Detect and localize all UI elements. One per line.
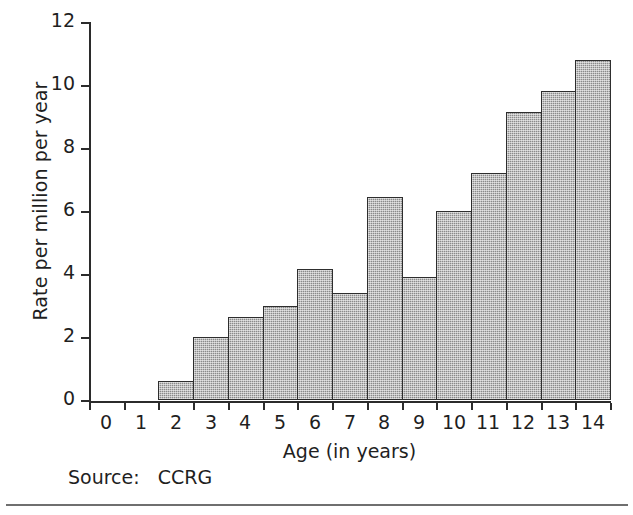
x-axis-tick-label: 6	[295, 411, 335, 433]
y-axis-tick: 6	[81, 211, 89, 213]
bar	[541, 91, 576, 400]
x-axis-tick	[541, 403, 543, 410]
x-axis-tick-label: 1	[121, 411, 161, 433]
y-axis-tick: 0	[81, 400, 89, 402]
y-axis-tick-label: 10	[51, 73, 75, 93]
x-axis-tick	[471, 403, 473, 410]
bar	[575, 60, 611, 400]
x-axis-title: Age (in years)	[89, 440, 610, 462]
y-axis-tick: 8	[81, 148, 89, 150]
y-axis-title: Rate per million per year	[29, 11, 51, 391]
x-axis-tick	[402, 403, 404, 410]
y-axis-line	[89, 22, 91, 403]
y-axis-tick-label: 2	[63, 325, 75, 345]
x-axis-tick	[297, 403, 299, 410]
y-axis-tick-label: 8	[63, 136, 75, 156]
x-axis-tick	[193, 403, 195, 410]
x-axis-line	[89, 401, 611, 403]
bar	[471, 173, 507, 400]
bar	[263, 306, 298, 401]
bar	[436, 211, 472, 400]
x-axis-tick	[506, 403, 508, 410]
x-axis-tick	[263, 403, 265, 410]
y-axis-tick-label: 4	[63, 262, 75, 282]
bar	[193, 337, 229, 400]
bar	[228, 317, 264, 400]
x-axis-tick	[158, 403, 160, 410]
bar	[297, 269, 333, 400]
bar-chart-figure: Rate per million per year 024681012 0123…	[0, 0, 633, 515]
x-axis-tick	[436, 403, 438, 410]
x-axis-tick-label: 2	[156, 411, 196, 433]
source-note: Source: CCRG	[68, 466, 212, 488]
bar	[332, 293, 368, 400]
x-axis-tick-label: 4	[225, 411, 265, 433]
y-axis-tick: 2	[81, 337, 89, 339]
bar	[506, 112, 542, 400]
y-axis-tick-label: 6	[63, 199, 75, 219]
x-axis-tick-label: 8	[364, 411, 404, 433]
x-axis-tick-label: 0	[86, 411, 126, 433]
x-axis-tick	[610, 403, 612, 410]
x-axis-tick	[332, 403, 334, 410]
x-axis-tick-label: 14	[573, 411, 613, 433]
bar	[158, 381, 194, 400]
y-axis-tick-label: 0	[63, 388, 75, 408]
x-axis-tick	[89, 403, 91, 410]
x-axis-tick-label: 13	[538, 411, 578, 433]
bar	[402, 277, 437, 400]
y-axis-tick-label: 12	[51, 10, 75, 30]
x-axis-tick	[367, 403, 369, 410]
x-axis-tick-label: 12	[503, 411, 543, 433]
x-axis-tick-label: 11	[468, 411, 508, 433]
y-axis-tick: 10	[81, 85, 89, 87]
x-axis-tick	[124, 403, 126, 410]
x-axis-tick	[575, 403, 577, 410]
x-axis-tick	[228, 403, 230, 410]
y-axis-tick: 4	[81, 274, 89, 276]
y-axis-tick: 12	[81, 22, 89, 24]
footer-divider	[6, 504, 628, 506]
x-axis-tick-label: 9	[399, 411, 439, 433]
plot-area: 024681012 01234567891011121314	[89, 22, 610, 402]
bar	[367, 197, 403, 400]
x-axis-tick-label: 5	[260, 411, 300, 433]
